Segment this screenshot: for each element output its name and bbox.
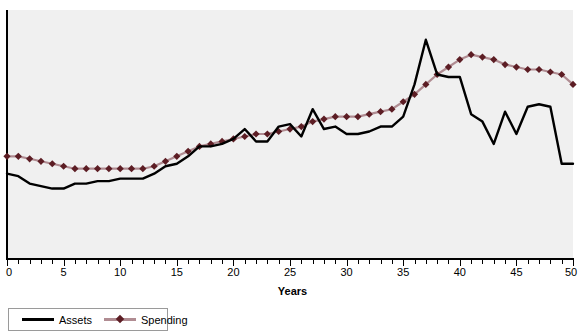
x-axis-minor-tick [109,260,110,264]
x-axis-minor-tick [188,260,189,264]
legend-item-spending: Spending [104,314,188,326]
x-axis-tick-label: 20 [227,266,239,278]
x-axis-tick-label: 0 [6,266,12,278]
x-axis-minor-tick [437,260,438,264]
x-axis-minor-tick [75,260,76,264]
x-axis-minor-tick [256,260,257,264]
x-axis-minor-tick [324,260,325,264]
plot-area-background [7,10,573,258]
x-axis-tick-label: 35 [397,266,409,278]
x-axis-minor-tick [369,260,370,264]
x-axis-minor-tick [301,260,302,264]
x-axis-minor-tick [381,260,382,264]
x-axis-minor-tick [41,260,42,264]
x-axis-minor-tick [18,260,19,264]
x-axis-tick-label: 25 [284,266,296,278]
x-axis-minor-tick [165,260,166,264]
chart-container: 05101520253035404550 Years Assets Spendi… [0,0,585,334]
x-axis-minor-tick [358,260,359,264]
x-axis-minor-tick [30,260,31,264]
x-axis-tick-label: 50 [565,266,577,278]
x-axis-minor-tick [98,260,99,264]
assets-line-swatch-icon [22,318,54,321]
x-axis-minor-tick [222,260,223,264]
chart-legend: Assets Spending [8,308,168,331]
legend-label-spending: Spending [141,314,188,326]
x-axis-minor-tick [471,260,472,264]
x-axis-minor-tick [562,260,563,264]
spending-line-swatch-icon [104,318,136,321]
x-axis-tick-label: 10 [114,266,126,278]
x-axis-minor-tick [426,260,427,264]
x-axis-minor-tick [211,260,212,264]
y-axis-spine [6,10,8,259]
x-axis-minor-tick [267,260,268,264]
x-axis-minor-tick [279,260,280,264]
x-axis-minor-tick [448,260,449,264]
x-axis-minor-tick [505,260,506,264]
x-axis-minor-tick [86,260,87,264]
legend-label-assets: Assets [59,314,92,326]
x-axis-minor-tick [335,260,336,264]
x-axis-minor-tick [494,260,495,264]
x-axis-minor-tick [245,260,246,264]
legend-item-assets: Assets [22,314,92,326]
x-axis-tick-label: 15 [171,266,183,278]
x-axis-minor-tick [392,260,393,264]
x-axis-minor-tick [528,260,529,264]
x-axis-minor-tick [132,260,133,264]
x-axis-minor-tick [539,260,540,264]
x-axis-minor-tick [199,260,200,264]
x-axis-minor-tick [143,260,144,264]
x-axis-minor-tick [154,260,155,264]
x-axis-title: Years [0,285,585,297]
x-axis-tick-label: 5 [61,266,67,278]
x-axis-minor-tick [52,260,53,264]
x-axis-minor-tick [482,260,483,264]
x-axis-minor-tick [313,260,314,264]
x-axis-minor-tick [415,260,416,264]
x-axis-tick-label: 40 [454,266,466,278]
x-axis-minor-tick [550,260,551,264]
x-axis-tick-label: 45 [510,266,522,278]
x-axis-tick-label: 30 [340,266,352,278]
